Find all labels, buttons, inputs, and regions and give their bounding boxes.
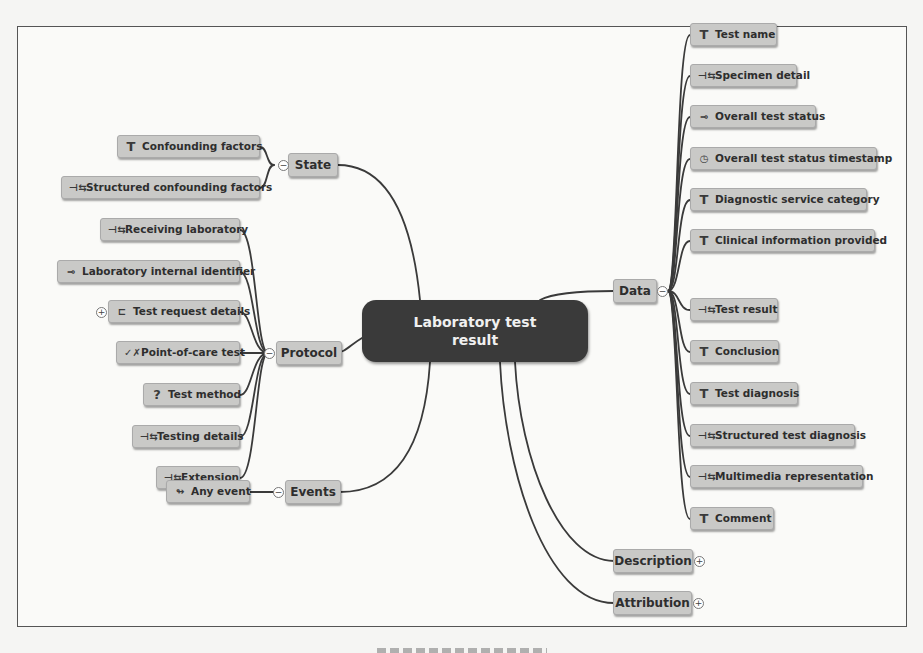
branch-events-label: Events	[290, 481, 336, 504]
event-icon: ↬	[174, 487, 186, 497]
node-label: Test diagnosis	[715, 382, 799, 405]
branch-data-label: Data	[619, 280, 651, 303]
node-label: Any event	[191, 480, 251, 503]
node-label: Point-of-care test	[141, 341, 245, 364]
node-point-of-care-test[interactable]: ✓✗ Point-of-care test	[116, 341, 240, 364]
caption-text-fragment	[377, 648, 547, 653]
branch-protocol-label: Protocol	[281, 342, 337, 365]
text-icon: T	[698, 512, 710, 525]
node-test-diagnosis[interactable]: T Test diagnosis	[690, 382, 798, 405]
figure-caption-cropped	[0, 640, 923, 653]
node-label: Test method	[168, 383, 241, 406]
page-background: Laboratory test result State − T Confoun…	[0, 0, 923, 653]
node-specimen-detail[interactable]: ⊣⇆ Specimen detail	[690, 64, 797, 87]
node-structured-test-diagnosis[interactable]: ⊣⇆ Structured test diagnosis	[690, 424, 855, 447]
root-node-label: Laboratory test result	[392, 313, 558, 349]
coded-text-icon: ⊸	[698, 112, 710, 122]
branch-description-label: Description	[614, 550, 692, 573]
cluster-icon: ⊣⇆	[140, 432, 152, 442]
expand-attribution-toggle[interactable]: +	[693, 598, 704, 609]
node-label: Structured confounding factors	[86, 176, 272, 199]
expand-test-request-details-toggle[interactable]: +	[96, 307, 107, 318]
node-label: Multimedia representation	[715, 465, 873, 488]
node-label: Specimen detail	[715, 64, 810, 87]
node-label: Test request details	[133, 300, 250, 323]
branch-state[interactable]: State	[288, 153, 338, 177]
node-test-name[interactable]: T Test name	[690, 23, 777, 46]
node-test-request-details[interactable]: ⊏ Test request details	[108, 300, 240, 323]
node-label: Structured test diagnosis	[715, 424, 866, 447]
branch-events[interactable]: Events	[285, 480, 341, 504]
text-icon: T	[698, 28, 710, 41]
branch-description[interactable]: Description	[613, 549, 693, 573]
node-test-result[interactable]: ⊣⇆ Test result	[690, 298, 778, 321]
node-any-event[interactable]: ↬ Any event	[166, 480, 250, 503]
text-icon: T	[698, 234, 710, 247]
branch-data[interactable]: Data	[613, 279, 657, 303]
branch-protocol[interactable]: Protocol	[276, 341, 342, 365]
node-multimedia-representation[interactable]: ⊣⇆ Multimedia representation	[690, 465, 863, 488]
node-comment[interactable]: T Comment	[690, 507, 774, 530]
node-label: Diagnostic service category	[715, 188, 880, 211]
expand-description-toggle[interactable]: +	[694, 556, 705, 567]
cluster-icon: ⊣⇆	[698, 472, 710, 482]
root-node[interactable]: Laboratory test result	[362, 300, 588, 362]
node-confounding-factors[interactable]: T Confounding factors	[117, 135, 260, 158]
node-overall-test-status-timestamp[interactable]: ◷ Overall test status timestamp	[690, 147, 877, 170]
branch-attribution[interactable]: Attribution	[613, 591, 692, 615]
collapse-protocol-toggle[interactable]: −	[264, 348, 275, 359]
node-label: Testing details	[157, 425, 244, 448]
node-label: Confounding factors	[142, 135, 262, 158]
node-label: Overall test status timestamp	[715, 147, 892, 170]
node-label: Test name	[715, 23, 775, 46]
cluster-icon: ⊣⇆	[108, 225, 120, 235]
datetime-icon: ◷	[698, 154, 710, 164]
node-label: Clinical information provided	[715, 229, 887, 252]
text-icon: T	[698, 387, 710, 400]
collapse-state-toggle[interactable]: −	[278, 160, 289, 171]
node-label: Laboratory internal identifier	[82, 260, 255, 283]
text-icon: T	[125, 140, 137, 153]
any-type-icon: ?	[151, 388, 163, 401]
cluster-icon: ⊣⇆	[698, 431, 710, 441]
node-label: Conclusion	[715, 340, 779, 363]
cluster-icon: ⊣⇆	[698, 71, 710, 81]
node-label: Comment	[715, 507, 771, 530]
branch-state-label: State	[295, 154, 331, 177]
boolean-icon: ✓✗	[124, 348, 136, 358]
node-conclusion[interactable]: T Conclusion	[690, 340, 779, 363]
cluster-icon: ⊣⇆	[69, 183, 81, 193]
node-receiving-laboratory[interactable]: ⊣⇆ Receiving laboratory	[100, 218, 240, 241]
branch-attribution-label: Attribution	[615, 592, 690, 615]
node-label: Overall test status	[715, 105, 825, 128]
text-icon: T	[698, 345, 710, 358]
node-clinical-information-provided[interactable]: T Clinical information provided	[690, 229, 875, 252]
node-testing-details[interactable]: ⊣⇆ Testing details	[132, 425, 240, 448]
cluster-icon: ⊣⇆	[698, 305, 710, 315]
node-overall-test-status[interactable]: ⊸ Overall test status	[690, 105, 816, 128]
collapse-events-toggle[interactable]: −	[273, 487, 284, 498]
cluster-icon: ⊏	[116, 307, 128, 317]
node-label: Test result	[715, 298, 777, 321]
node-laboratory-internal-identifier[interactable]: ⊸ Laboratory internal identifier	[57, 260, 240, 283]
text-icon: T	[698, 193, 710, 206]
node-structured-confounding-factors[interactable]: ⊣⇆ Structured confounding factors	[61, 176, 260, 199]
node-diagnostic-service-category[interactable]: T Diagnostic service category	[690, 188, 867, 211]
node-test-method[interactable]: ? Test method	[143, 383, 240, 406]
node-label: Receiving laboratory	[125, 218, 248, 241]
identifier-icon: ⊸	[65, 267, 77, 277]
collapse-data-toggle[interactable]: −	[657, 286, 668, 297]
